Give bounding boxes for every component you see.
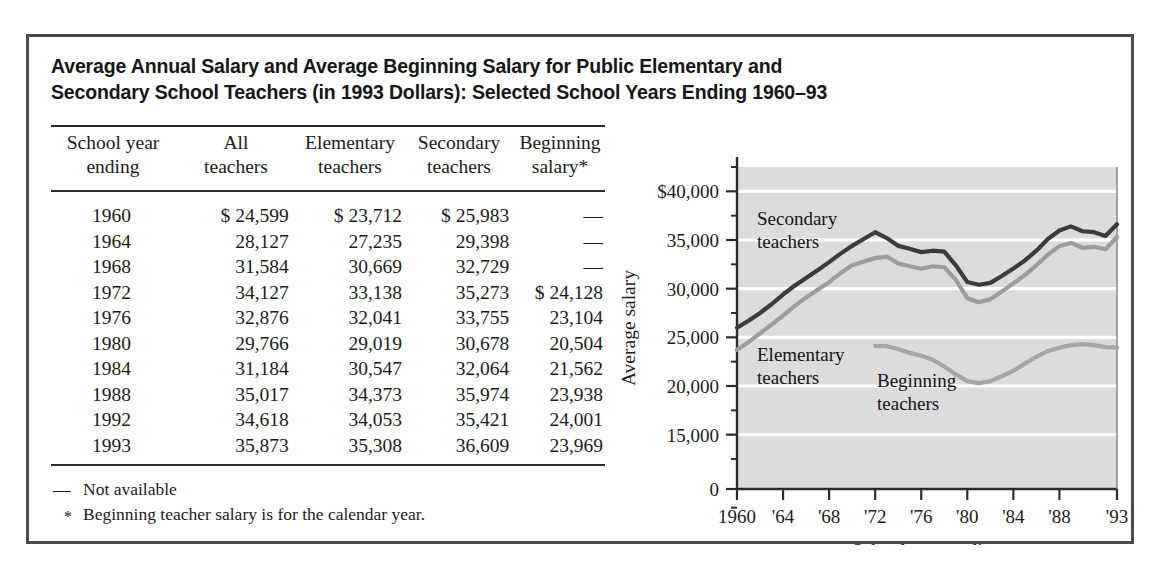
footnote-text-not-available: Not available [83,477,607,502]
footnotes: — Not available * Beginning teacher sala… [49,477,607,529]
cell-elementary: 30,669 [295,254,404,280]
x-axis-title: School year ending [852,540,1003,545]
cell-year: 1976 [49,305,174,331]
cell-beginning: 21,562 [511,356,607,382]
cell-beginning: — [511,254,607,280]
cell-elementary: 30,547 [295,356,404,382]
x-tick-label: 1960 [718,506,756,527]
table-row: 1960 $ 24,599 $ 23,712 $ 25,983 — [49,203,607,229]
cell-elementary: 32,041 [295,305,404,331]
y-tick-label: 30,000 [667,279,719,300]
cell-beginning: — [511,203,607,229]
y-tick-label: 15,000 [667,425,719,446]
series-annotation: teachers [877,393,939,414]
figure-title-line-2: Secondary School Teachers (in 1993 Dolla… [51,79,1061,105]
cell-all-teachers: 32,876 [174,305,295,331]
series-annotation: Elementary [757,344,845,365]
cell-beginning: 23,969 [511,433,607,459]
cell-beginning: $ 24,128 [511,280,607,306]
cell-all-teachers: 28,127 [174,229,295,255]
footnote-beginning-salary: * Beginning teacher salary is for the ca… [49,502,607,529]
cell-beginning: 23,104 [511,305,607,331]
y-tick-label: 35,000 [667,230,719,251]
cell-year: 1964 [49,229,174,255]
cell-year: 1960 [49,203,174,229]
col-header-all-teachers-line2: teachers [177,155,295,179]
col-header-secondary-line2: teachers [405,155,513,179]
cell-all-teachers: 35,873 [174,433,295,459]
x-tick-label: '80 [956,506,978,527]
cell-year: 1988 [49,382,174,408]
cell-all-teachers: $ 24,599 [174,203,295,229]
cell-secondary: 35,974 [404,382,511,408]
cell-elementary: 35,308 [295,433,404,459]
cell-elementary: 34,373 [295,382,404,408]
y-tick-label: 25,000 [667,327,719,348]
y-tick-label: 20,000 [667,376,719,397]
col-header-secondary-line1: Secondary [405,131,513,155]
series-annotation: Secondary [757,208,838,229]
y-tick-label: $40,000 [657,181,719,202]
table-row: 1993 35,873 35,308 36,609 23,969 [49,433,607,459]
x-tick-label: '84 [1002,506,1025,527]
table-row: 1992 34,618 34,053 35,421 24,001 [49,407,607,433]
table-row: 1972 34,127 33,138 35,273 $ 24,128 [49,280,607,306]
col-header-school-year-line1: School year [49,131,177,155]
series-annotation: Beginning [877,370,957,391]
salary-line-chart: $40,00035,00030,00025,00020,00015,0000 1… [609,125,1129,545]
figure-frame: Average Annual Salary and Average Beginn… [26,34,1134,544]
series-annotation: teachers [757,231,819,252]
cell-secondary: 30,678 [404,331,511,357]
y-tick-label: 0 [710,479,720,500]
data-table-panel: School year All Elementary Secondary Beg… [49,125,607,535]
cell-year: 1984 [49,356,174,382]
x-tick-label: '88 [1048,506,1070,527]
cell-secondary: $ 25,983 [404,203,511,229]
table-row: 1980 29,766 29,019 30,678 20,504 [49,331,607,357]
cell-secondary: 32,064 [404,356,511,382]
table-header-rule [51,190,605,192]
cell-elementary: 27,235 [295,229,404,255]
cell-beginning: 24,001 [511,407,607,433]
x-axis-tick-labels: 1960'64'68'72'76'80'84'88'93 [718,506,1128,527]
x-tick-label: '64 [772,506,795,527]
x-tick-label: '68 [818,506,840,527]
table-header-row-2: ending teachers teachers teachers salary… [49,155,607,179]
x-tick-label: '93 [1106,506,1128,527]
cell-year: 1992 [49,407,174,433]
table-header-row-1: School year All Elementary Secondary Beg… [49,131,607,155]
figure-title: Average Annual Salary and Average Beginn… [51,53,1061,105]
cell-elementary: 29,019 [295,331,404,357]
cell-secondary: 36,609 [404,433,511,459]
cell-all-teachers: 31,184 [174,356,295,382]
table-row: 1964 28,127 27,235 29,398 — [49,229,607,255]
cell-all-teachers: 31,584 [174,254,295,280]
table-row: 1976 32,876 32,041 33,755 23,104 [49,305,607,331]
cell-elementary: 33,138 [295,280,404,306]
cell-beginning: — [511,229,607,255]
cell-secondary: 33,755 [404,305,511,331]
x-tick-label: '72 [864,506,886,527]
footnote-marker-asterisk: * [49,502,83,529]
cell-year: 1980 [49,331,174,357]
col-header-elementary-line2: teachers [295,155,405,179]
table-row: 1984 31,184 30,547 32,064 21,562 [49,356,607,382]
cell-beginning: 23,938 [511,382,607,408]
table-header: School year All Elementary Secondary Beg… [49,131,607,179]
cell-year: 1968 [49,254,174,280]
col-header-beginning-line2: salary* [513,155,607,179]
cell-secondary: 29,398 [404,229,511,255]
footnote-not-available: — Not available [49,477,607,502]
cell-all-teachers: 29,766 [174,331,295,357]
table-bottom-rule [51,464,605,466]
figure-title-line-1: Average Annual Salary and Average Beginn… [51,53,1061,79]
y-axis-title: Average salary [618,270,639,386]
col-header-school-year-line2: ending [49,155,177,179]
line-chart-panel: $40,00035,00030,00025,00020,00015,0000 1… [609,125,1129,545]
x-tick-label: '76 [910,506,932,527]
cell-elementary: 34,053 [295,407,404,433]
col-header-elementary-line1: Elementary [295,131,405,155]
cell-elementary: $ 23,712 [295,203,404,229]
cell-beginning: 20,504 [511,331,607,357]
series-annotation: teachers [757,367,819,388]
